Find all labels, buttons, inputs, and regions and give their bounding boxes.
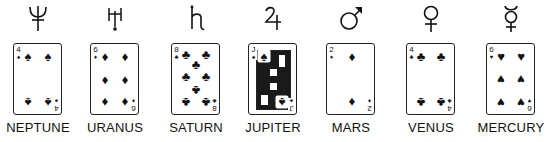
diamond-icon: ♦ (130, 98, 137, 104)
mercury-icon (473, 3, 548, 33)
spade-icon: ♠ (258, 50, 271, 63)
planet-jupiter: J♠ ♠ ♠ J♠ JUPITER (235, 0, 311, 142)
planet-uranus: 6♦ ♦ ♦ ♦ ♦ ♦ ♦ 6♦ URANUS (77, 0, 153, 142)
club-icon: ♣ (446, 98, 453, 104)
spade-icon: ♠ (53, 98, 60, 104)
planet-neptune: 4♠ ♠ ♠ ♠ ♠ 4♠ NEPTUNE (0, 0, 76, 142)
spade-icon: ♠ (42, 50, 55, 63)
club-icon: ♣ (200, 70, 213, 83)
heart-icon: ♥ (495, 96, 508, 109)
planet-mars: 2♦ ♦ ♦ 2♦ MARS (313, 0, 389, 142)
spade-icon: ♠ (22, 96, 35, 109)
heart-icon: ♥ (495, 73, 508, 86)
spade-icon: ♠ (22, 50, 35, 63)
planet-saturn: 8♣ ♣ ♣ ♣ ♣ ♣ ♣ ♣ ♣ 8♣ SATURN (158, 0, 234, 142)
club-icon: ♣ (415, 96, 428, 109)
heart-icon: ♥ (515, 73, 528, 86)
card-rank: J (250, 46, 257, 54)
planet-venus: 4♣ ♣ ♣ ♣ ♣ 4♣ VENUS (393, 0, 469, 142)
diamond-icon: ♦ (99, 96, 112, 109)
diamond-icon: ♦ (99, 50, 112, 63)
neptune-icon (0, 3, 76, 33)
diamond-icon: ♦ (119, 73, 132, 86)
saturn-icon (158, 3, 234, 33)
club-icon: ♣ (415, 50, 428, 63)
planet-label: MERCURY (463, 120, 548, 135)
diamond-icon: ♦ (346, 50, 359, 63)
club-icon: ♣ (435, 50, 448, 63)
playing-card: 4♣ ♣ ♣ ♣ ♣ 4♣ (406, 43, 455, 115)
club-icon: ♣ (180, 96, 193, 109)
card-rank: 2 (328, 46, 335, 54)
card-rank: 4 (53, 104, 60, 112)
card-rank: 8 (211, 104, 218, 112)
heart-icon: ♥ (515, 50, 528, 63)
card-rank: 6 (130, 104, 137, 112)
spade-icon: ♠ (276, 96, 289, 109)
playing-card: 6♥ ♥ ♥ ♥ ♥ ♥ ♥ 6♥ (486, 43, 535, 115)
playing-card: 2♦ ♦ ♦ 2♦ (326, 43, 375, 115)
spade-icon: ♠ (288, 98, 295, 104)
playing-card: 4♠ ♠ ♠ ♠ ♠ 4♠ (13, 43, 62, 115)
card-rank: 6 (526, 104, 533, 112)
venus-icon (393, 3, 469, 33)
card-rank: 2 (366, 104, 373, 112)
heart-icon: ♥ (495, 50, 508, 63)
uranus-icon (77, 3, 153, 33)
playing-card: 8♣ ♣ ♣ ♣ ♣ ♣ ♣ ♣ ♣ 8♣ (171, 43, 220, 115)
card-rank: 4 (446, 104, 453, 112)
playing-card: J♠ ♠ ♠ J♠ (248, 43, 297, 115)
diamond-icon: ♦ (119, 50, 132, 63)
club-icon: ♣ (211, 98, 218, 104)
jupiter-icon (235, 3, 311, 33)
club-icon: ♣ (180, 70, 193, 83)
planet-mercury: 6♥ ♥ ♥ ♥ ♥ ♥ ♥ 6♥ MERCURY (473, 0, 548, 142)
spade-icon: ♠ (250, 54, 257, 60)
diamond-icon: ♦ (346, 96, 359, 109)
diamond-icon: ♦ (328, 54, 335, 60)
card-rank: J (288, 104, 295, 112)
playing-card: 6♦ ♦ ♦ ♦ ♦ ♦ ♦ 6♦ (90, 43, 139, 115)
heart-icon: ♥ (526, 98, 533, 104)
diamond-icon: ♦ (99, 73, 112, 86)
diamond-icon: ♦ (366, 98, 373, 104)
mars-icon (313, 3, 389, 33)
